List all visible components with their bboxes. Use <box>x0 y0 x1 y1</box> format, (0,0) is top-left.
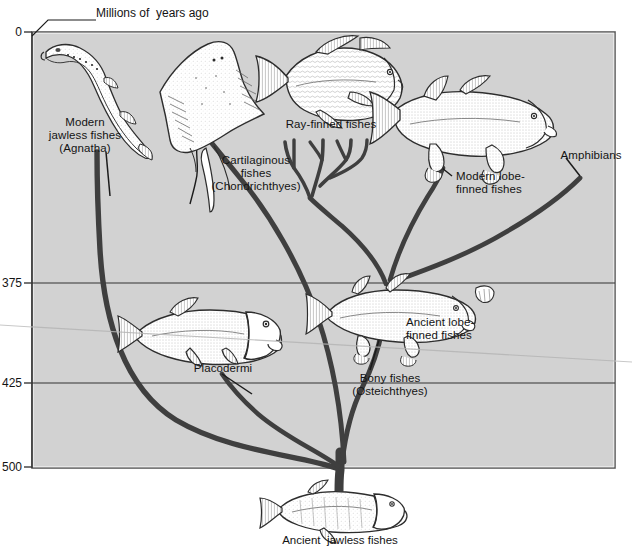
label-bony-fishes: Bony fishes (Osteichthyes) <box>340 372 440 398</box>
axis-tick-425: 425 <box>0 377 22 389</box>
figure-canvas: Millions of years ago 0 375 425 500 Mode… <box>0 0 632 550</box>
label-cartilaginous-fishes: Cartilaginous fishes (Chondrichthyes) <box>196 154 316 194</box>
label-amphibians: Amphibians <box>552 149 630 162</box>
axis-title: Millions of years ago <box>96 7 209 20</box>
axis-tick-375: 375 <box>0 277 22 289</box>
label-ancient-lobe-finned-fishes: Ancient lobe- finned fishes <box>406 316 500 342</box>
axis-tick-0: 0 <box>0 26 22 38</box>
axis-tick-500: 500 <box>0 461 22 473</box>
branch-trunk <box>339 452 340 492</box>
scan-artifact-right <box>615 361 632 362</box>
label-placodermi: Placodermi <box>188 362 258 375</box>
scan-artifact-left <box>0 325 32 327</box>
caption-ancient-jawless-fishes: Ancient jawless fishes <box>250 534 430 547</box>
label-ray-finned-fishes: Ray-finned fishes <box>276 118 386 131</box>
label-modern-lobe-finned-fishes: Modern lobe- finned fishes <box>456 170 552 196</box>
evolution-tree-diagram <box>0 0 632 550</box>
label-modern-jawless-fishes: Modern jawless fishes (Agnatha) <box>30 116 140 156</box>
